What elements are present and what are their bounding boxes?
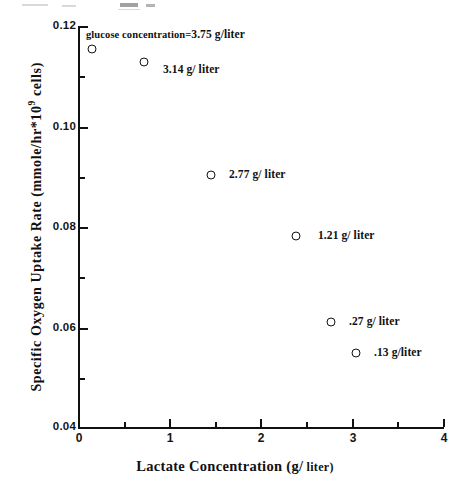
point-annotation-2: 3.14 g/ liter [163, 63, 220, 75]
point-annotation-3: 2.77 g/ liter [229, 168, 286, 180]
x-tick-major [443, 419, 445, 427]
scan-artifact [118, 9, 140, 10]
x-tick-minor [306, 422, 308, 427]
data-point-marker [327, 318, 336, 327]
x-axis-title-unit: liter) [303, 460, 333, 474]
y-tick-label: 0.12 [53, 19, 76, 31]
x-tick-label: 1 [167, 431, 174, 445]
y-tick-major [80, 427, 88, 429]
y-axis-title-exponent: 9 [27, 100, 37, 105]
scan-artifact [22, 4, 48, 6]
y-tick-label: 0.06 [53, 321, 76, 333]
y-tick-major [80, 328, 88, 330]
x-tick-label: 4 [441, 431, 448, 445]
y-tick-label: 0.10 [53, 120, 76, 132]
scan-artifact [62, 5, 76, 7]
y-axis-title: Specific Oxygen Uptake Rate (mmole/hr*10… [27, 12, 45, 442]
y-axis-title-main: Specific Oxygen Uptake Rate (mmole/hr*10 [29, 105, 44, 391]
y-tick-major [80, 127, 88, 129]
y-tick-major [80, 227, 88, 229]
x-axis-title-main: Lactate Concentration (g/ [136, 458, 303, 474]
x-axis-title: Lactate Concentration (g/ liter) [0, 458, 470, 475]
x-tick-minor [215, 422, 217, 427]
point-annotation-5: .27 g/ liter [349, 315, 400, 327]
point-annotation-1-value: 3.75 g/liter [191, 28, 245, 40]
point-annotation-1: glucose concentration=3.75 g/liter [86, 28, 245, 40]
x-tick-major [78, 419, 80, 427]
y-tick-minor [80, 277, 85, 279]
data-point-marker [88, 45, 97, 54]
data-point-marker [140, 58, 149, 67]
x-tick-label: 2 [258, 431, 265, 445]
x-tick-label: 3 [350, 431, 357, 445]
data-point-marker [352, 349, 361, 358]
scan-artifact [146, 4, 155, 7]
x-axis-line [78, 427, 444, 429]
data-point-marker [207, 171, 216, 180]
data-point-marker [292, 232, 301, 241]
scan-artifact [120, 3, 138, 7]
x-tick-minor [124, 422, 126, 427]
y-tick-minor [80, 177, 85, 179]
point-annotation-6: .13 g/liter [374, 346, 422, 358]
x-tick-major [169, 419, 171, 427]
y-tick-label: 0.04 [53, 420, 76, 432]
point-annotation-1-lead: glucose concentration= [86, 29, 191, 40]
x-tick-major [260, 419, 262, 427]
x-tick-minor [397, 422, 399, 427]
point-annotation-4: 1.21 g/ liter [318, 229, 375, 241]
x-tick-label: 0 [76, 431, 83, 445]
y-tick-label: 0.08 [53, 220, 76, 232]
x-tick-major [352, 419, 354, 427]
scatter-chart-figure: 0.12 0.10 0.08 0.06 0.04 0 1 2 3 4 Speci… [0, 0, 470, 485]
y-tick-minor [80, 76, 85, 78]
y-tick-minor [80, 378, 85, 380]
y-axis-title-tail: cells) [29, 62, 44, 100]
